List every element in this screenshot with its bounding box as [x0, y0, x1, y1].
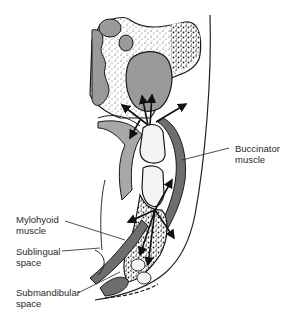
label-line: space — [16, 298, 80, 309]
upper-molar — [140, 125, 165, 164]
label-submandibular-space: Submandibular space — [16, 287, 80, 309]
lymph-node — [137, 272, 151, 284]
label-line: muscle — [235, 154, 280, 165]
label-line: muscle — [16, 225, 59, 236]
label-line: Buccinator — [235, 143, 280, 154]
label-line: Submandibular — [16, 287, 80, 298]
lymph-node — [131, 259, 145, 271]
label-sublingual-space: Sublingual space — [16, 246, 60, 268]
label-buccinator-muscle: Buccinator muscle — [235, 143, 280, 165]
maxillary-sinus — [126, 52, 172, 112]
ethmoid-cell — [119, 35, 133, 51]
label-line: Mylohyoid — [16, 214, 59, 225]
label-line: space — [16, 257, 60, 268]
palate-soft-tissue — [98, 121, 142, 200]
tongue-outline — [101, 180, 105, 250]
leader-buccinator — [182, 148, 229, 160]
leader-mylohyoid — [65, 221, 125, 240]
ethmoid-cell — [99, 19, 121, 37]
leader-sublingual — [62, 248, 100, 251]
label-line: Sublingual — [16, 246, 60, 257]
label-mylohyoid-muscle: Mylohyoid muscle — [16, 214, 59, 236]
